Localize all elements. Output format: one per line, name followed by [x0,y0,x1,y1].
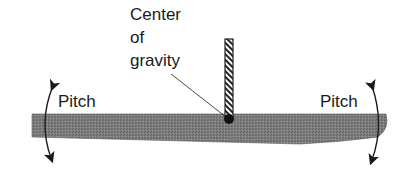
board-hull [32,114,387,144]
cg-label-line-1: Center [130,5,181,24]
sailboard-pitch-diagram: Center of gravity Pitch Pitch [0,0,406,169]
cg-label: Center of gravity [130,5,186,70]
center-of-gravity-dot [224,114,234,124]
mast [225,39,233,119]
cg-label-line-3: gravity [130,51,181,70]
pitch-label-left: Pitch [58,92,96,111]
cg-leader-line [171,74,226,117]
cg-label-line-2: of [130,28,144,47]
pitch-label-right: Pitch [320,92,358,111]
